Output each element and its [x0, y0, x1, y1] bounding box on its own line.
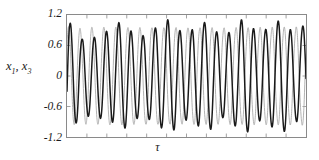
- ytick-label-2: 0.6: [0, 39, 62, 51]
- y-axis-title: x1, x3: [6, 60, 31, 76]
- y-axis-title-sep: , x: [16, 59, 28, 73]
- ytick-label-1: 1.2: [0, 8, 62, 20]
- x-axis-title: τ: [0, 141, 319, 153]
- plot-area: [66, 14, 307, 138]
- x-axis-title-text: τ: [155, 140, 159, 154]
- plot-svg: [67, 15, 306, 137]
- figure-container: 1.2 0.6 0 -0.6 -1.2 x1, x3 τ: [0, 0, 319, 160]
- ytick-label-4: -0.6: [0, 101, 62, 113]
- y-axis-title-sub2: 3: [27, 67, 31, 76]
